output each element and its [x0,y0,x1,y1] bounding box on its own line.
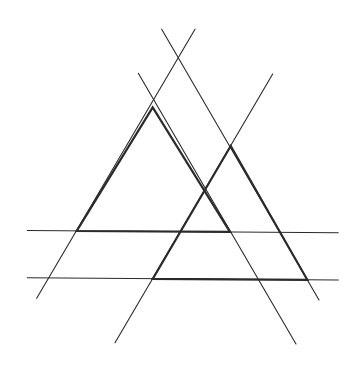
line-b [138,73,296,344]
triangle-diagram [0,0,362,368]
right-triangle [153,146,308,280]
construction-lines [27,29,338,344]
line-a [37,29,195,298]
highlighted-triangles [77,107,308,279]
left-triangle [77,107,230,232]
